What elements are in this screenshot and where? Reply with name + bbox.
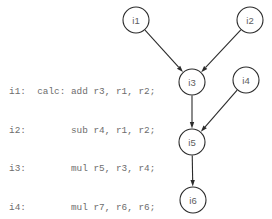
instruction-dependency-figure: i1: calc: add r3, r1, r2; i2: sub r4, r1… [0, 0, 272, 219]
graph-node-i2[interactable]: i2 [237, 7, 263, 33]
node-label-i2: i2 [246, 15, 253, 26]
graph-node-i5[interactable]: i5 [179, 129, 205, 155]
arrowhead-icon [190, 122, 194, 129]
graph-node-i1[interactable]: i1 [123, 7, 149, 33]
graph-edge-i4-to-i5 [205, 90, 237, 127]
node-label-i1: i1 [132, 15, 139, 26]
graph-node-i6[interactable]: i6 [180, 187, 206, 213]
graph-node-i3[interactable]: i3 [179, 69, 205, 95]
graph-edge-i1-to-i3 [145, 30, 179, 67]
graph-node-i4[interactable]: i4 [233, 67, 259, 93]
node-label-i4: i4 [242, 75, 249, 86]
node-label-i6: i6 [189, 195, 196, 206]
dependency-graph: i1i2i3i4i5i6 [0, 0, 272, 219]
arrowhead-icon [190, 180, 194, 187]
graph-edge-i2-to-i3 [206, 30, 241, 68]
node-label-i3: i3 [188, 77, 195, 88]
graph-edges [145, 30, 241, 187]
node-label-i5: i5 [188, 137, 195, 148]
